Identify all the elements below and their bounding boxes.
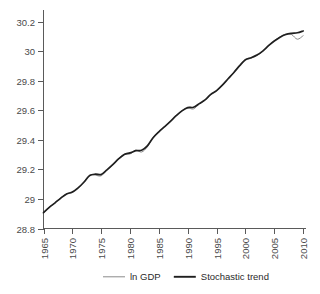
legend-label-ln-gdp: ln GDP [130, 271, 161, 282]
chart-svg: 28.82929.229.429.629.83030.2 19651970197… [0, 0, 320, 294]
y-tick-label: 29.8 [17, 76, 36, 87]
x-tick-label: 2010 [298, 238, 309, 259]
line-chart-figure: 28.82929.229.429.629.83030.2 19651970197… [0, 0, 320, 294]
y-tick-label: 29.4 [17, 135, 36, 146]
y-tick-label: 30 [24, 46, 35, 57]
x-tick-label: 1970 [67, 238, 78, 259]
y-tick-label: 28.8 [17, 224, 36, 235]
x-tick-label: 1995 [212, 238, 223, 259]
x-tick-label: 2005 [269, 238, 280, 259]
x-tick-label: 1990 [183, 238, 194, 259]
y-tick-label: 29.6 [17, 105, 36, 116]
x-tick-label: 1985 [154, 238, 165, 259]
x-tick-label: 1965 [39, 238, 50, 259]
x-tick-label: 1980 [125, 238, 136, 259]
legend-label-stochastic-trend: Stochastic trend [201, 271, 269, 282]
x-tick-label: 1975 [96, 238, 107, 259]
x-tick-label: 2000 [240, 238, 251, 259]
y-tick-label: 29 [24, 194, 35, 205]
y-tick-label: 29.2 [17, 164, 36, 175]
y-tick-label: 30.2 [17, 17, 36, 28]
